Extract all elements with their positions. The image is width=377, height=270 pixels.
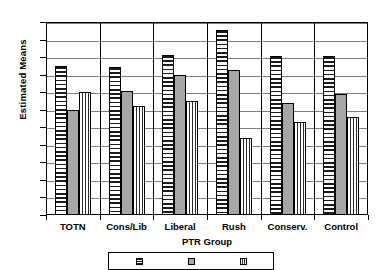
bar bbox=[174, 75, 186, 215]
bar bbox=[323, 56, 335, 215]
x-axis-tick-mark bbox=[261, 215, 262, 220]
y-axis-tick-mark bbox=[40, 145, 46, 146]
y-axis-tick-mark bbox=[40, 40, 46, 41]
x-axis-tick-mark bbox=[46, 215, 47, 220]
y-axis-tick-mark bbox=[40, 197, 46, 198]
y-axis-tick-mark bbox=[40, 110, 46, 111]
bar bbox=[121, 91, 133, 215]
group-separator bbox=[314, 22, 315, 215]
bar bbox=[79, 92, 91, 215]
bar bbox=[109, 67, 121, 215]
bar-group bbox=[207, 22, 261, 215]
x-axis-tick-label: Conserv. bbox=[261, 221, 315, 232]
group-separator bbox=[261, 22, 262, 215]
group-separator bbox=[153, 22, 154, 215]
legend-swatch bbox=[136, 258, 143, 265]
bar bbox=[162, 55, 174, 215]
y-axis-tick-mark bbox=[40, 127, 46, 128]
legend-item bbox=[188, 258, 195, 265]
y-axis-tick-mark bbox=[40, 162, 46, 163]
y-axis-tick-mark bbox=[40, 180, 46, 181]
legend-swatch bbox=[188, 258, 195, 265]
bar-group bbox=[46, 22, 100, 215]
x-axis-tick-mark bbox=[100, 215, 101, 220]
legend-item bbox=[240, 258, 247, 265]
x-axis-tick-label: Rush bbox=[207, 221, 261, 232]
x-axis-tick-label: Liberal bbox=[153, 221, 207, 232]
y-axis-tick-mark bbox=[40, 22, 46, 23]
bar bbox=[270, 56, 282, 215]
bar-group bbox=[261, 22, 315, 215]
bar bbox=[216, 30, 228, 215]
x-axis-tick-mark bbox=[153, 215, 154, 220]
bar bbox=[186, 101, 198, 215]
chart-legend bbox=[108, 252, 274, 270]
x-axis-tick-label: Cons/Lib bbox=[100, 221, 154, 232]
bar-group bbox=[314, 22, 368, 215]
bar bbox=[228, 70, 240, 215]
y-axis-title: Estimated Means bbox=[17, 20, 28, 140]
x-axis-tick-label: TOTN bbox=[46, 221, 100, 232]
x-axis-tick-mark bbox=[207, 215, 208, 220]
bar bbox=[347, 117, 359, 215]
bar bbox=[282, 103, 294, 215]
legend-item bbox=[136, 258, 143, 265]
group-separator bbox=[100, 22, 101, 215]
y-axis-tick-mark bbox=[40, 215, 46, 216]
bar bbox=[133, 106, 145, 215]
bar bbox=[335, 94, 347, 215]
bar bbox=[240, 138, 252, 215]
y-axis-tick-mark bbox=[40, 57, 46, 58]
legend-swatch bbox=[240, 258, 247, 265]
x-axis-tick-mark bbox=[314, 215, 315, 220]
x-axis-ticks bbox=[46, 215, 368, 220]
bar bbox=[67, 110, 79, 215]
group-separator bbox=[207, 22, 208, 215]
y-axis-tick-mark bbox=[40, 92, 46, 93]
bar bbox=[55, 66, 67, 215]
bar bbox=[294, 122, 306, 215]
y-axis-tick-mark bbox=[40, 75, 46, 76]
x-axis-tick-labels: TOTNCons/LibLiberalRushConserv.Control bbox=[46, 221, 368, 232]
x-axis-title: PTR Group bbox=[46, 236, 368, 247]
bar-group bbox=[100, 22, 154, 215]
bar-groups bbox=[46, 22, 368, 215]
bar-group bbox=[153, 22, 207, 215]
x-axis-tick-mark bbox=[368, 215, 369, 220]
x-axis-tick-label: Control bbox=[314, 221, 368, 232]
